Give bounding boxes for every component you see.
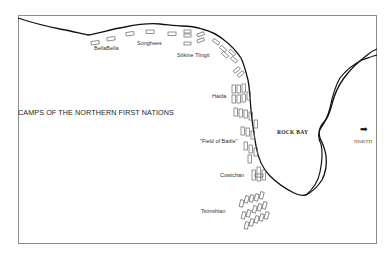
map-drawing [0, 0, 390, 254]
camp-label-songhees: Songhees [137, 41, 162, 47]
place-label-rock-bay: ROCK BAY [277, 130, 308, 136]
camp-label-cowichan: Cowichan [220, 173, 244, 179]
coastline [18, 18, 377, 195]
map-canvas: CAMPS OF THE NORTHERN FIRST NATIONS Bell… [0, 0, 390, 254]
map-title: CAMPS OF THE NORTHERN FIRST NATIONS [18, 109, 174, 116]
north-label: NORTH [354, 139, 372, 144]
camp-label-tsimshian: Tsimshian [201, 209, 225, 215]
camp-label-stikine-tlingit: Stikine Tlingit [177, 53, 210, 59]
camp-label-bellabella: BellaBella [94, 46, 118, 52]
camp-label-haida: Haida [212, 94, 226, 100]
north-arrow-icon: ➡ [360, 125, 368, 134]
camp-label-field-of-battle: "Field of Battle" [200, 139, 238, 145]
